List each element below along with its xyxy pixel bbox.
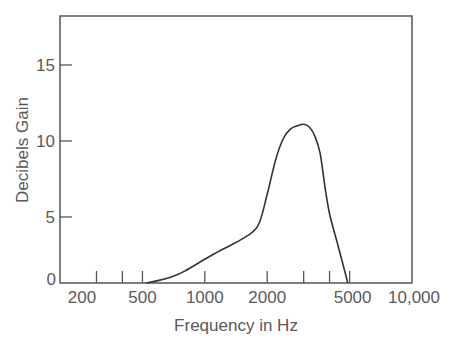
- y-axis-title: Decibels Gain: [13, 97, 32, 203]
- gain-curve: [146, 124, 348, 283]
- y-tick-label: 15: [36, 56, 55, 75]
- x-tick-label: 1000: [186, 288, 224, 307]
- x-axis-title: Frequency in Hz: [174, 316, 298, 335]
- x-tick-label: 500: [128, 288, 156, 307]
- x-tick-label: 200: [68, 288, 96, 307]
- x-tick-label: 2000: [248, 288, 286, 307]
- y-tick-label: 0: [47, 270, 56, 289]
- x-tick-label: 5000: [334, 288, 372, 307]
- x-axis-ticks: 20050010002000500010,000: [68, 271, 440, 307]
- y-axis-ticks: 051015: [36, 56, 72, 289]
- frequency-response-chart: 051015 20050010002000500010,000 Frequenc…: [0, 0, 451, 352]
- y-tick-label: 10: [36, 132, 55, 151]
- x-tick-label: 10,000: [388, 288, 440, 307]
- y-tick-label: 5: [46, 208, 55, 227]
